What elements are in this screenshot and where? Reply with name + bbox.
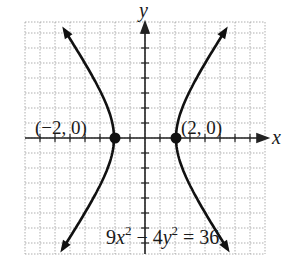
- x-axis-arrow-icon: [257, 134, 268, 142]
- vertex-right-dot: [171, 133, 182, 144]
- axes: [25, 22, 268, 254]
- y-axis-arrow-icon: [141, 22, 149, 33]
- vertex-right-label: (2, 0): [181, 117, 222, 139]
- equation-label: 9x2 − 4y2 = 36: [106, 223, 219, 249]
- vertex-left-dot: [110, 133, 121, 144]
- hyperbola-graph: y x (−2, 0) (2, 0) 9x2 − 4y2 = 36: [0, 0, 300, 270]
- x-axis-label: x: [271, 126, 281, 148]
- y-axis-label: y: [137, 0, 148, 22]
- vertex-left-label: (−2, 0): [35, 117, 87, 139]
